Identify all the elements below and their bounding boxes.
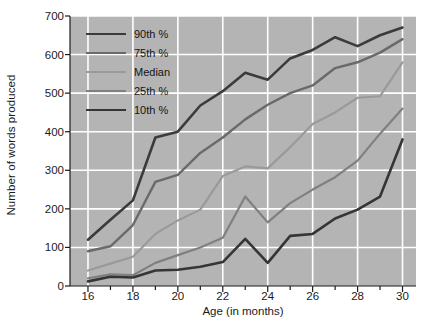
chart-legend: 90th %75th %Median25th %10th % — [86, 24, 198, 119]
legend-label: 75th % — [134, 47, 168, 59]
y-axis-tick-labels: 0100200300400500600700 — [20, 0, 64, 326]
legend-swatch-line — [86, 52, 126, 54]
x-axis-tick-label: 16 — [68, 290, 108, 302]
legend-swatch-line — [86, 109, 126, 111]
x-axis-tick-label: 24 — [248, 290, 288, 302]
y-axis-tick-label: 600 — [24, 49, 64, 61]
legend-item-median[interactable]: Median — [86, 62, 198, 81]
plot-area: 90th %75th %Median25th %10th % — [70, 16, 416, 286]
y-axis-title-text: Number of words produced — [5, 74, 17, 215]
y-axis-tick-label: 100 — [24, 241, 64, 253]
x-axis-tick-label: 28 — [338, 290, 378, 302]
y-axis-tick-label: 200 — [24, 203, 64, 215]
x-axis-tick-label: 20 — [158, 290, 198, 302]
legend-label: 90th % — [134, 28, 168, 40]
legend-item-90th[interactable]: 90th % — [86, 24, 198, 43]
legend-label: 25th % — [134, 85, 168, 97]
chart-figure: Number of words produced 010020030040050… — [0, 0, 445, 326]
x-axis-tick-label: 22 — [203, 290, 243, 302]
x-axis-title: Age (in months) — [70, 305, 416, 317]
legend-label: 10th % — [134, 104, 168, 116]
series-line-10th — [88, 139, 403, 281]
y-axis-tick-label: 700 — [24, 10, 64, 22]
x-axis-tick-label: 30 — [383, 290, 423, 302]
legend-item-75th[interactable]: 75th % — [86, 43, 198, 62]
x-axis-tick-label: 26 — [293, 290, 333, 302]
y-axis-tick-label: 400 — [24, 126, 64, 138]
y-axis-title: Number of words produced — [0, 0, 22, 290]
legend-item-10th[interactable]: 10th % — [86, 100, 198, 119]
legend-swatch-line — [86, 90, 126, 92]
x-axis-tick-label: 18 — [113, 290, 153, 302]
legend-swatch-line — [86, 71, 126, 73]
legend-label: Median — [134, 66, 170, 78]
y-axis-tick-label: 500 — [24, 87, 64, 99]
y-axis-tick-label: 300 — [24, 164, 64, 176]
legend-swatch-line — [86, 33, 126, 35]
legend-item-25th[interactable]: 25th % — [86, 81, 198, 100]
